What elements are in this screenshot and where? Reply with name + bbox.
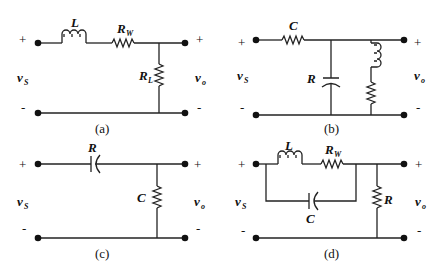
terminal-out-plus-b	[182, 161, 189, 168]
svg-text:S: S	[24, 202, 29, 211]
terminal-out-minus-b	[182, 235, 189, 242]
caption-c: (b)	[324, 121, 339, 136]
svg-text:o: o	[421, 76, 425, 85]
label-Rw-d: R	[324, 142, 334, 157]
svg-text:o: o	[202, 78, 206, 87]
vo-label-d: v	[415, 194, 421, 209]
in-minus-sign-c: -	[240, 100, 244, 115]
caption-a: (a)	[95, 121, 109, 136]
resistor-RL-a	[155, 64, 163, 86]
circuit-a: + - + - v S v o L R W R L (a)	[17, 15, 206, 136]
terminal-out-plus-d	[401, 161, 408, 168]
caption-d: (d)	[324, 246, 339, 261]
out-plus-sign-a: +	[196, 32, 203, 47]
label-C-b: R	[87, 140, 97, 155]
out-minus-sign-c: -	[416, 100, 420, 115]
svg-text:o: o	[422, 202, 426, 211]
svg-text:S: S	[244, 76, 249, 85]
inductor-L-c	[371, 43, 381, 67]
terminal-in-plus-c	[253, 37, 260, 44]
resistor-Rw-a	[112, 39, 134, 47]
label-C-d: C	[306, 211, 315, 226]
terminal-in-minus-d	[253, 235, 260, 242]
svg-text:W: W	[334, 150, 342, 159]
terminal-in-minus-b	[35, 235, 42, 242]
terminal-in-plus-a	[35, 40, 42, 47]
svg-text:L: L	[147, 76, 153, 85]
in-plus-sign-d: +	[238, 157, 245, 172]
resistor-RL-b	[153, 186, 161, 208]
label-L-a: L	[70, 15, 79, 30]
terminal-in-plus-b	[35, 161, 42, 168]
circuit-figure: + - + - v S v o L R W R L (a)	[0, 0, 446, 278]
vs-label-d: v	[235, 194, 241, 209]
resistor-R-c	[282, 36, 304, 44]
resistor-Rw-c	[367, 82, 375, 104]
label-RL-a: R	[138, 68, 148, 83]
terminal-out-minus-a	[182, 110, 189, 117]
svg-text:S: S	[24, 78, 29, 87]
out-plus-sign-c: +	[414, 35, 421, 50]
out-minus-sign-a: -	[197, 100, 201, 115]
label-Rw-a: R	[116, 21, 126, 36]
caption-b: (c)	[95, 246, 109, 261]
circuit-c: + - + - v S v o C R (b)	[237, 18, 425, 136]
in-plus-sign-b: +	[19, 157, 26, 172]
svg-text:o: o	[201, 202, 205, 211]
circuit-d: + - + - v S v o L R W C R (d)	[235, 138, 426, 261]
out-minus-sign-b: -	[196, 221, 200, 236]
out-plus-sign-d: +	[415, 157, 422, 172]
terminal-in-minus-a	[35, 110, 42, 117]
vs-label-b: v	[17, 194, 23, 209]
terminal-in-plus-d	[253, 161, 260, 168]
resistor-Rw-d	[321, 160, 343, 168]
label-R-c: C	[289, 18, 298, 33]
svg-text:S: S	[242, 202, 247, 211]
out-minus-sign-d: -	[417, 223, 421, 238]
out-plus-sign-b: +	[194, 157, 201, 172]
label-C-c: R	[306, 71, 316, 86]
terminal-in-minus-c	[253, 112, 260, 119]
in-minus-sign-a: -	[21, 100, 25, 115]
terminal-out-plus-a	[182, 40, 189, 47]
terminal-out-minus-d	[401, 235, 408, 242]
in-plus-sign-a: +	[19, 32, 26, 47]
svg-text:W: W	[126, 29, 134, 38]
label-L-d: L	[284, 138, 293, 153]
inductor-L-a	[62, 30, 86, 43]
in-plus-sign-c: +	[238, 35, 245, 50]
circuit-b: + - + - v S v o R C (c)	[17, 140, 205, 261]
label-RL-b: C	[137, 190, 146, 205]
in-minus-sign-b: -	[22, 221, 26, 236]
vo-label-a: v	[195, 70, 201, 85]
vs-label-a: v	[17, 70, 23, 85]
vo-label-c: v	[414, 68, 420, 83]
in-minus-sign-d: -	[241, 223, 245, 238]
label-R-d: R	[383, 192, 393, 207]
vs-label-c: v	[237, 68, 243, 83]
terminal-out-plus-c	[401, 37, 408, 44]
resistor-R-d	[373, 186, 381, 208]
terminal-out-minus-c	[401, 112, 408, 119]
vo-label-b: v	[194, 194, 200, 209]
